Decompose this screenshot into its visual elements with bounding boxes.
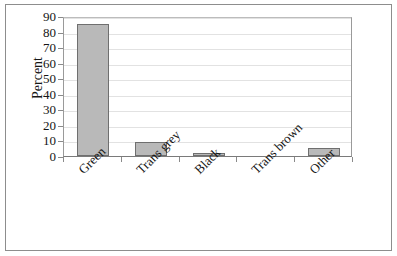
y-axis-tick-label: 80 (26, 26, 56, 39)
y-axis-tick-label: 10 (26, 134, 56, 147)
x-axis-tick (352, 157, 353, 162)
y-axis-tick (58, 79, 63, 80)
y-axis-tick-label: 20 (26, 119, 56, 132)
gridline (64, 18, 351, 19)
y-axis-tick-label: 50 (26, 72, 56, 85)
y-axis-tick-label: 0 (26, 150, 56, 163)
y-axis-tick (58, 126, 63, 127)
y-axis-tick-labels: 0102030405060708090 (22, 0, 56, 256)
y-axis-tick (58, 64, 63, 65)
y-axis-tick (58, 48, 63, 49)
y-axis-tick-label: 40 (26, 88, 56, 101)
y-axis-tick (58, 157, 63, 158)
x-axis-tick (236, 157, 237, 162)
bar (77, 24, 109, 156)
y-axis-tick-label: 70 (26, 41, 56, 54)
x-axis-tick (294, 157, 295, 162)
y-axis-tick (58, 33, 63, 34)
y-axis-tick-label: 30 (26, 103, 56, 116)
x-axis-tick (121, 157, 122, 162)
y-axis-tick (58, 141, 63, 142)
y-axis-tick (58, 95, 63, 96)
y-axis-tick-label: 60 (26, 57, 56, 70)
y-axis-tick (58, 17, 63, 18)
figure: Percent 0102030405060708090 GreenTrans g… (0, 0, 397, 256)
y-axis-tick (58, 110, 63, 111)
y-axis-tick-label: 90 (26, 10, 56, 23)
plot-area (63, 17, 352, 157)
x-axis-tick (63, 157, 64, 162)
x-axis-tick (179, 157, 180, 162)
